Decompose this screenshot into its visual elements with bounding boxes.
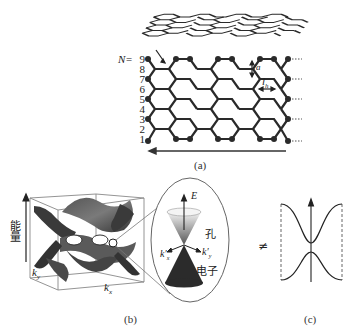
band-gap-plot <box>0 0 354 334</box>
caption-c: (c) <box>304 313 316 325</box>
